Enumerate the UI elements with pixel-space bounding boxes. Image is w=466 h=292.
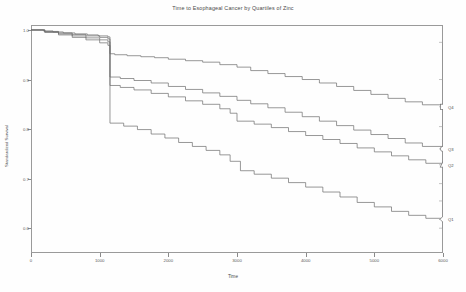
x-tick-label: 3000 <box>232 258 242 263</box>
y-axis-label: Standardized Survival <box>4 125 9 167</box>
x-tick-label: 0 <box>30 258 32 263</box>
x-tick-label: 6000 <box>438 258 448 263</box>
x-tick-label: 1000 <box>95 258 105 263</box>
x-tick-mark <box>100 253 101 257</box>
plot-area <box>31 25 443 253</box>
legend-label-q3: Q3 <box>448 146 454 151</box>
x-tick-mark <box>443 253 444 257</box>
legend-label-q1: Q1 <box>448 217 454 222</box>
y-tick-label: 0.9 <box>23 77 29 82</box>
chart-title: Time to Esophageal Cancer by Quartiles o… <box>0 5 466 11</box>
x-tick-label: 4000 <box>301 258 311 263</box>
legend-label-q2: Q2 <box>448 162 454 167</box>
x-tick-mark <box>31 253 32 257</box>
x-axis-label: Time <box>0 274 466 279</box>
survival-curve-q1 <box>31 30 443 219</box>
y-tick-label: 0.7 <box>23 176 29 181</box>
error-bar-marker-q4 <box>440 104 443 109</box>
x-tick-label: 2000 <box>164 258 174 263</box>
y-tick-label: 0.8 <box>23 127 29 132</box>
y-tick-label: 1.0 <box>23 27 29 32</box>
survival-curve-q4 <box>31 30 443 107</box>
x-tick-label: 5000 <box>370 258 380 263</box>
y-tick-label: 0.6 <box>23 226 29 231</box>
x-tick-mark <box>306 253 307 257</box>
x-tick-mark <box>374 253 375 257</box>
x-tick-mark <box>237 253 238 257</box>
legend-label-q4: Q4 <box>448 104 454 109</box>
error-bar-marker-q3 <box>440 146 443 151</box>
x-tick-mark <box>168 253 169 257</box>
chart-root: Time to Esophageal Cancer by Quartiles o… <box>0 0 466 292</box>
survival-curve-q3 <box>31 30 443 149</box>
error-bar-marker-q1 <box>440 216 443 222</box>
